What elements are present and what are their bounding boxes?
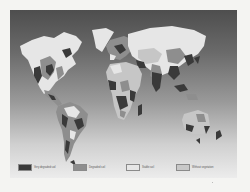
world-map <box>10 10 237 178</box>
stable-swatch <box>126 164 140 171</box>
speck <box>212 182 213 183</box>
legend-item-degraded: Degraded soil <box>73 163 105 171</box>
india <box>152 72 162 92</box>
legend-label: Without vegetation <box>192 166 213 169</box>
legend-label: Stable soil <box>142 166 154 169</box>
legend-item-very-degraded: Very degraded soil <box>18 163 55 171</box>
new-zealand <box>216 130 222 140</box>
without-vegetation-swatch <box>176 164 190 171</box>
very-degraded-swatch <box>18 164 32 171</box>
degraded-swatch <box>73 164 87 171</box>
madagascar <box>138 104 142 116</box>
legend-label: Degraded soil <box>89 166 105 169</box>
legend-label: Very degraded soil <box>34 166 55 169</box>
legend-item-without-vegetation: Without vegetation <box>176 163 213 171</box>
legend-item-stable: Stable soil <box>126 163 154 171</box>
map-panel <box>10 10 237 178</box>
map-legend: Very degraded soil Degraded soil Stable … <box>18 163 233 173</box>
